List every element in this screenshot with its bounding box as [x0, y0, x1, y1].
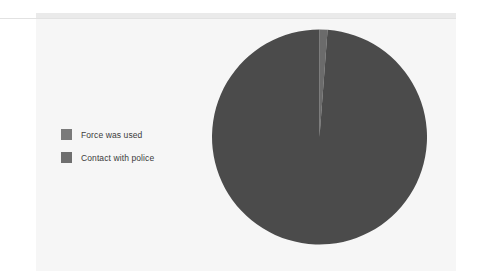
chart-legend: Force was used Contact with police — [61, 125, 211, 171]
legend-label-force-was-used: Force was used — [81, 130, 142, 140]
legend-item-contact-with-police[interactable]: Contact with police — [61, 148, 211, 167]
pie-slice-group — [212, 30, 427, 245]
pie-chart — [212, 29, 427, 245]
legend-item-force-was-used[interactable]: Force was used — [61, 125, 211, 144]
pie-chart-svg — [212, 29, 427, 245]
legend-swatch-contact-with-police — [61, 152, 72, 163]
legend-label-contact-with-police: Contact with police — [81, 153, 154, 163]
chart-screenshot: Force was used Contact with police — [0, 0, 479, 273]
scan-line — [0, 18, 456, 19]
legend-swatch-force-was-used — [61, 129, 72, 140]
